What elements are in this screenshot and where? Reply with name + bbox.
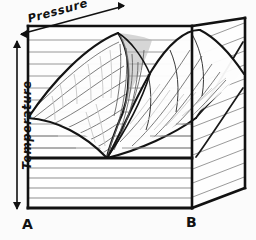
block-diagram-figure <box>0 0 256 240</box>
corner-label-a: A <box>22 216 33 232</box>
diagram-canvas: Pressure Temperature A B <box>0 0 256 240</box>
temperature-axis-label: Temperature <box>20 80 34 169</box>
corner-label-b: B <box>186 214 197 230</box>
front-face-lower-block <box>28 158 192 208</box>
